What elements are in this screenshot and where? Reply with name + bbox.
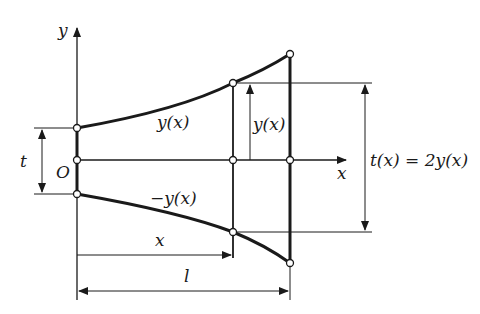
x-axis-label: x [337,163,347,183]
diagram: y x O t y(x) −y(x) y(x) t(x) = 2y(x) x l [0,0,480,314]
upper-curve-label: y(x) [156,112,189,132]
half-height-label: y(x) [252,114,285,134]
thickness-label: t [20,151,27,171]
total-height-label: t(x) = 2y(x) [370,150,468,170]
position-label: x [155,230,165,250]
origin-label: O [56,162,70,182]
lower-curve-label: −y(x) [150,188,197,208]
y-axis-label: y [57,20,68,40]
length-label: l [184,266,189,286]
